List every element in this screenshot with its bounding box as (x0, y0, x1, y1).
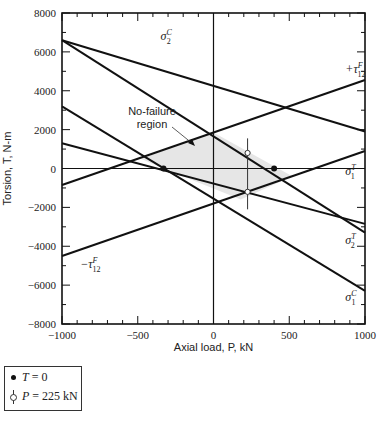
line-annotation: σC2 (160, 28, 172, 46)
x-tick-label: 1000 (354, 329, 377, 341)
chart: −1000−5000500100080006000400020000−2000−… (0, 0, 382, 422)
region-label: No-failure (128, 105, 176, 117)
x-tick-label: 500 (281, 329, 298, 341)
y-tick-label: −2000 (28, 201, 57, 213)
legend-item-t0: T = 0 (11, 370, 47, 385)
y-tick-label: −4000 (28, 240, 57, 252)
legend: T = 0 P = 225 kN (4, 366, 82, 411)
y-tick-label: 6000 (34, 46, 57, 58)
x-tick-label: 0 (211, 329, 217, 341)
line-annotation: σT2 (345, 232, 356, 250)
open-circle-bar-icon (11, 390, 16, 404)
x-axis-title: Axial load, P, kN (174, 341, 253, 353)
y-tick-label: 8000 (34, 7, 57, 19)
line-annotation: σT1 (345, 163, 356, 181)
open-circle-icon (245, 189, 250, 194)
y-tick-label: 2000 (34, 124, 57, 136)
line-annotation: −τF12 (80, 256, 100, 274)
y-tick-label: 0 (51, 163, 57, 175)
y-tick-label: −6000 (28, 279, 57, 291)
legend-item-p225: P = 225 kN (11, 389, 78, 404)
line-annotation: σC1 (345, 289, 357, 307)
y-tick-label: 4000 (34, 85, 57, 97)
open-circle-icon (245, 150, 250, 155)
x-tick-label: −500 (126, 329, 149, 341)
y-tick-label: −8000 (28, 318, 57, 330)
line-annotation: +τF12 (345, 61, 365, 79)
region-label: region (137, 118, 168, 130)
filled-dot-icon (11, 375, 16, 380)
y-axis-title: Torsion, T, N-m (1, 132, 13, 206)
filled-dot-icon (161, 166, 167, 172)
filled-dot-icon (271, 166, 277, 172)
x-tick-label: −1000 (48, 329, 77, 341)
